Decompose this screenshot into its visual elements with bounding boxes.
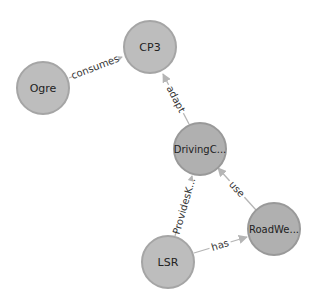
edge-adapt[interactable]: adapt <box>163 74 190 124</box>
node-drivingc[interactable]: DrivingC... <box>174 123 227 175</box>
node-ogre[interactable]: Ogre <box>17 62 69 114</box>
edge-has[interactable]: has <box>194 235 247 254</box>
edge-label-adapt: adapt <box>164 84 187 115</box>
node-lsr[interactable]: LSR <box>142 236 194 288</box>
graph-canvas[interactable]: consumes adapt ProvidesK... use has <box>0 0 315 303</box>
node-roadwe[interactable]: RoadWe... <box>248 203 300 255</box>
node-label-ogre: Ogre <box>30 82 57 95</box>
edge-label-has: has <box>210 237 230 253</box>
node-label-roadwe: RoadWe... <box>249 224 299 235</box>
edge-label-consumes: consumes <box>69 53 120 81</box>
edge-consumes[interactable]: consumes <box>69 51 122 81</box>
node-cp3[interactable]: CP3 <box>124 21 176 73</box>
node-label-lsr: LSR <box>158 256 179 269</box>
edge-provides[interactable]: ProvidesK... <box>169 176 198 236</box>
node-label-cp3: CP3 <box>139 41 160 54</box>
edge-use[interactable]: use <box>218 168 256 210</box>
node-label-drivingc: DrivingC... <box>174 144 227 155</box>
